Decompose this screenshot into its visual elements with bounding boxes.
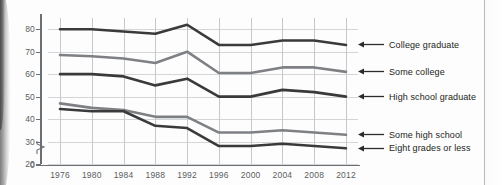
legend-item: Some college bbox=[358, 66, 445, 78]
chart-legend: College graduateSome collegeHigh school … bbox=[358, 0, 498, 185]
legend-item: Eight grades or less bbox=[358, 142, 471, 154]
x-axis-tick-label: 1976 bbox=[50, 170, 70, 180]
y-axis-tick-label: 60 bbox=[25, 69, 35, 79]
series-lines bbox=[48, 18, 358, 164]
y-axis-tick-mark bbox=[36, 119, 41, 120]
x-axis-tick-label: 1992 bbox=[177, 170, 197, 180]
x-axis-line bbox=[40, 165, 360, 166]
legend-item: College graduate bbox=[358, 39, 459, 51]
left-arrow-icon bbox=[358, 144, 384, 153]
left-arrow-icon bbox=[358, 67, 384, 76]
y-axis-tick-label: 20 bbox=[25, 159, 35, 169]
y-axis-tick-mark bbox=[36, 165, 41, 166]
x-axis-tick-label: 2000 bbox=[241, 170, 261, 180]
chart-page: 020304050607080 197619801984198819921996… bbox=[0, 0, 502, 185]
legend-item-label: Some high school bbox=[389, 130, 462, 140]
series-line bbox=[60, 25, 346, 45]
series-line bbox=[60, 109, 346, 148]
y-axis-tick-label: 50 bbox=[25, 92, 35, 102]
y-axis-tick-mark bbox=[36, 29, 41, 30]
legend-item: High school graduate bbox=[358, 91, 476, 103]
y-axis-tick-label: 70 bbox=[25, 47, 35, 57]
series-line bbox=[60, 52, 346, 73]
series-line bbox=[60, 103, 346, 134]
x-axis-tick-label: 1980 bbox=[82, 170, 102, 180]
x-axis-tick-label: 2004 bbox=[273, 170, 293, 180]
y-axis-tick-label: 30 bbox=[25, 137, 35, 147]
y-axis-tick-mark bbox=[36, 164, 41, 165]
x-axis-tick-label: 2008 bbox=[304, 170, 324, 180]
series-line bbox=[60, 74, 346, 96]
y-axis-tick-mark bbox=[36, 74, 41, 75]
legend-item-label: Some college bbox=[389, 67, 445, 77]
left-arrow-icon bbox=[358, 92, 384, 101]
y-axis-tick-label: 40 bbox=[25, 114, 35, 124]
x-axis-tick-label: 1996 bbox=[209, 170, 229, 180]
legend-item-label: Eight grades or less bbox=[389, 143, 471, 153]
legend-item-label: College graduate bbox=[389, 40, 459, 50]
gridline-horizontal bbox=[48, 164, 358, 165]
y-axis-tick-mark bbox=[36, 97, 41, 98]
line-chart-plot-area: 020304050607080 197619801984198819921996… bbox=[48, 18, 358, 164]
legend-item: Some high school bbox=[358, 129, 462, 141]
left-arrow-icon bbox=[358, 40, 384, 49]
axis-break-icon bbox=[35, 141, 47, 154]
x-axis-tick-label: 2012 bbox=[336, 170, 356, 180]
x-axis-tick-label: 1984 bbox=[114, 170, 134, 180]
y-axis-tick-label: 80 bbox=[25, 24, 35, 34]
x-axis-tick-label: 1988 bbox=[145, 170, 165, 180]
left-arrow-icon bbox=[358, 130, 384, 139]
legend-item-label: High school graduate bbox=[389, 92, 476, 102]
y-axis-tick-mark bbox=[36, 52, 41, 53]
